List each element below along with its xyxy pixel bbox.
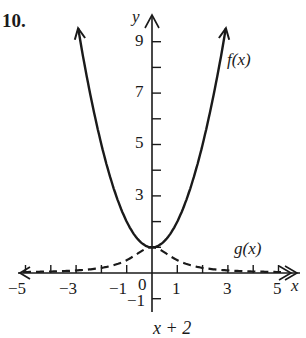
x-tick-label: 5 (273, 279, 282, 298)
g-label: g(x) (234, 239, 262, 258)
f-label: f(x) (227, 50, 251, 69)
x-tick-label: 1 (172, 279, 181, 298)
x-axis-label: x (290, 276, 299, 295)
axes (18, 15, 300, 312)
y-tick-label: 5 (135, 133, 144, 152)
y-axis-label: y (130, 7, 140, 26)
y-tick-label: −1 (127, 291, 145, 310)
x-tick-label: −3 (59, 279, 77, 298)
bottom-text-fragment: x + 2 (153, 318, 191, 338)
y-tick-label: 9 (135, 31, 144, 50)
x-tick-label: 3 (223, 279, 232, 298)
y-ticks (152, 42, 161, 299)
y-tick-label: 7 (135, 82, 144, 101)
x-tick-label: −5 (8, 279, 26, 298)
x-tick-label: −1 (109, 279, 127, 298)
y-tick-label: 3 (135, 185, 144, 204)
